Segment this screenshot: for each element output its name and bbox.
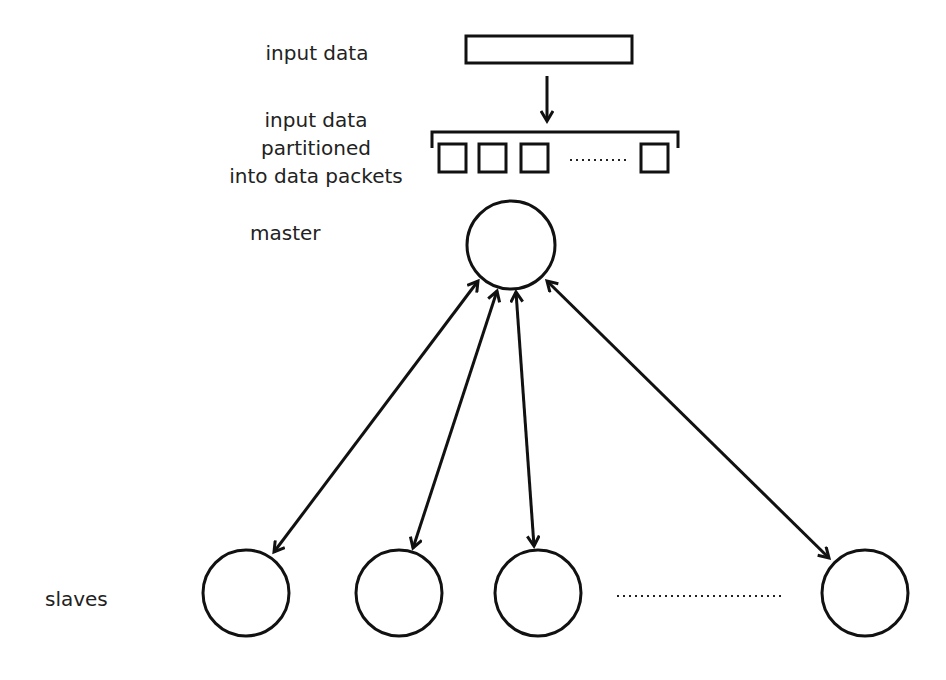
data-packet bbox=[479, 144, 506, 172]
input-data-label: input data bbox=[266, 41, 369, 65]
data-packet bbox=[641, 144, 668, 172]
data-packet bbox=[439, 144, 466, 172]
slaves-label: slaves bbox=[45, 587, 108, 611]
slave-node-2 bbox=[356, 550, 442, 636]
connections bbox=[274, 281, 829, 558]
slave-node-4 bbox=[822, 550, 908, 636]
input-data-block bbox=[466, 36, 632, 63]
data-packet bbox=[521, 144, 548, 172]
master-slave-diagram: input data input data partitioned into d… bbox=[0, 0, 946, 680]
slave-nodes bbox=[203, 550, 908, 636]
connection-arrow-slave-2 bbox=[413, 291, 497, 548]
master-label: master bbox=[250, 221, 321, 245]
partitioned-label-line-1: input data bbox=[265, 108, 368, 132]
slave-node-3 bbox=[495, 550, 581, 636]
slave-node-1 bbox=[203, 550, 289, 636]
connection-arrow-slave-1 bbox=[274, 281, 478, 552]
partitioned-label: input data partitioned into data packets bbox=[229, 108, 402, 188]
data-packets bbox=[439, 144, 668, 172]
partitioned-label-line-2: partitioned bbox=[261, 136, 371, 160]
partitioned-label-line-3: into data packets bbox=[229, 164, 402, 188]
master-node bbox=[467, 201, 555, 289]
connection-arrow-slave-4 bbox=[547, 281, 829, 558]
connection-arrow-slave-3 bbox=[516, 292, 534, 546]
